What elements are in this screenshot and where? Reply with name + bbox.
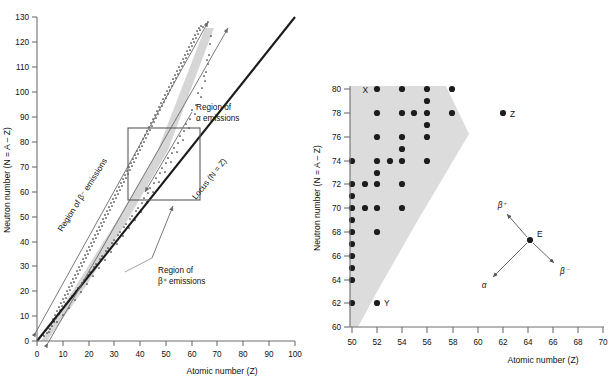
right-ytick-66: 66 [332, 252, 342, 261]
left-y-axis: 0 10 20 30 40 50 60 70 80 90 100 110 120… [2, 13, 37, 346]
right-ytick-60: 60 [332, 323, 342, 332]
right-y-axis-title: Neutron number (N = A – Z) [312, 145, 322, 251]
beta-plus-region-label-line2: β⁺ emissions [158, 277, 205, 286]
alpha-region-label-line2: α emissions [196, 114, 239, 123]
table-dot [387, 158, 393, 164]
table-dot [399, 181, 405, 187]
table-dot [424, 158, 430, 164]
right-ytick-68: 68 [332, 228, 342, 237]
table-dot [449, 110, 455, 116]
left-x-axis-title: Atomic number (Z) [186, 366, 257, 376]
locus-line [37, 17, 295, 341]
beta-plus-leader [125, 258, 152, 272]
decay-center-label: E [537, 229, 543, 239]
right-ytick-78: 78 [332, 109, 342, 118]
table-dot [424, 86, 430, 92]
beta-minus-region-label: Region of β⁻ emissions [56, 157, 109, 233]
nuclide-detail-panel: X Y Z E β⁺ β⁻ α [306, 0, 612, 380]
stability-wedge [350, 86, 469, 327]
table-dot [424, 134, 430, 140]
right-ytick-72: 72 [332, 180, 342, 189]
right-xtick-50: 50 [347, 338, 357, 347]
left-ytick-130: 130 [15, 13, 29, 22]
right-ytick-62: 62 [332, 299, 342, 308]
left-ytick-110: 110 [16, 63, 29, 72]
left-y-axis-title: Neutron number (N = A – Z) [2, 127, 12, 233]
left-xtick-80: 80 [238, 350, 248, 359]
table-dot [411, 110, 417, 116]
left-ytick-40: 40 [20, 238, 30, 247]
nuclide-overview-panel: Region of α emissions Region of β⁻ emiss… [0, 0, 306, 380]
alpha-label: α [482, 281, 487, 290]
right-xtick-66: 66 [548, 338, 558, 347]
left-xtick-0: 0 [35, 350, 40, 359]
table-dot [399, 146, 405, 152]
right-ytick-70: 70 [332, 204, 342, 213]
right-xtick-56: 56 [422, 338, 432, 347]
right-xtick-68: 68 [573, 338, 583, 347]
left-xtick-70: 70 [212, 350, 222, 359]
left-xtick-10: 10 [58, 350, 68, 359]
left-ytick-10: 10 [20, 312, 30, 321]
table-dot [362, 181, 368, 187]
table-dot [362, 205, 368, 211]
left-xtick-50: 50 [161, 350, 171, 359]
locus-label: Locus (N = Z) [191, 156, 229, 201]
left-chart-svg: Region of α emissions Region of β⁻ emiss… [0, 0, 306, 380]
beta-plus-region-label-line1: Region of [158, 266, 194, 275]
table-dot [374, 181, 380, 187]
point-z [500, 110, 506, 116]
left-ytick-90: 90 [20, 113, 30, 122]
table-dot [399, 205, 405, 211]
left-xtick-60: 60 [187, 350, 197, 359]
table-dot [424, 122, 430, 128]
table-dot [399, 134, 405, 140]
point-z-label: Z [510, 109, 515, 119]
right-x-axis-title: Atomic number (Z) [507, 355, 578, 365]
table-dot [399, 86, 405, 92]
left-x-axis: 0 10 20 30 40 50 60 70 80 90 100 Atomic … [35, 341, 303, 376]
point-y-label: Y [384, 298, 390, 308]
left-ytick-120: 120 [15, 38, 29, 47]
left-ytick-0: 0 [24, 337, 29, 346]
left-xtick-30: 30 [109, 350, 119, 359]
left-ytick-30: 30 [20, 262, 30, 271]
nuclide-dots [42, 21, 212, 337]
decay-center-dot [527, 237, 533, 243]
left-xtick-90: 90 [264, 350, 274, 359]
right-ytick-80: 80 [332, 85, 342, 94]
right-xtick-64: 64 [523, 338, 533, 347]
beta-plus-leader-arrow [152, 206, 173, 258]
right-ytick-76: 76 [332, 133, 342, 142]
table-dot [374, 229, 380, 235]
table-dot [374, 110, 380, 116]
table-dot [399, 158, 405, 164]
table-dot [424, 110, 430, 116]
left-xtick-40: 40 [135, 350, 145, 359]
alpha-arrow [493, 243, 527, 277]
alpha-region-label-line1: Region of [196, 103, 232, 112]
right-xtick-54: 54 [397, 338, 407, 347]
right-ytick-64: 64 [332, 276, 342, 285]
right-xtick-52: 52 [372, 338, 382, 347]
beta-plus-arrow [507, 214, 527, 237]
table-dot [374, 205, 380, 211]
right-xtick-58: 58 [448, 338, 458, 347]
right-ytick-74: 74 [332, 157, 342, 166]
left-xtick-100: 100 [288, 350, 302, 359]
left-ytick-60: 60 [20, 188, 30, 197]
left-ytick-20: 20 [20, 287, 30, 296]
left-ytick-100: 100 [15, 88, 29, 97]
left-ytick-70: 70 [20, 163, 30, 172]
beta-minus-label: β⁻ [559, 267, 570, 276]
left-ytick-80: 80 [20, 138, 30, 147]
right-y-axis: 60 62 64 66 68 70 72 74 76 78 80 Neutron… [312, 85, 350, 332]
nuclide-figure: Region of α emissions Region of β⁻ emiss… [0, 0, 612, 380]
right-chart-svg: X Y Z E β⁺ β⁻ α [306, 0, 612, 380]
table-dot [374, 170, 380, 176]
point-y [374, 300, 380, 306]
right-xtick-60: 60 [473, 338, 483, 347]
left-ytick-50: 50 [20, 213, 30, 222]
right-x-axis: 50 52 54 56 58 60 62 64 66 68 70 Atomic … [347, 327, 608, 365]
beta-plus-label: β⁺ [497, 201, 508, 210]
